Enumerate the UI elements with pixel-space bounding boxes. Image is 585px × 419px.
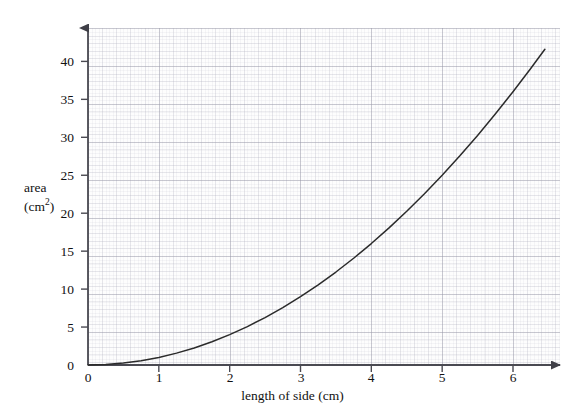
y-tick-label-10: 10 bbox=[44, 283, 74, 297]
x-tick-label-2: 2 bbox=[217, 371, 243, 385]
y-tick-label-30: 30 bbox=[44, 131, 74, 145]
y-axis-title: area (cm2) bbox=[24, 180, 54, 215]
y-tick-label-35: 35 bbox=[44, 93, 74, 107]
y-tick-label-0: 0 bbox=[44, 359, 74, 373]
x-tick-label-0: 0 bbox=[75, 371, 101, 385]
y-tick-label-15: 15 bbox=[44, 245, 74, 259]
y-axis-title-line2: (cm2) bbox=[24, 197, 54, 215]
plot-canvas bbox=[0, 0, 585, 419]
y-axis-title-line1: area bbox=[24, 180, 54, 197]
y-axis-unit-prefix: (cm bbox=[24, 198, 45, 213]
data-curve bbox=[88, 49, 545, 365]
x-axis-title: length of side (cm) bbox=[0, 388, 585, 405]
x-tick-label-4: 4 bbox=[358, 371, 384, 385]
x-axis-ticks bbox=[159, 365, 513, 372]
y-tick-label-5: 5 bbox=[44, 321, 74, 335]
y-axis-ticks bbox=[81, 61, 88, 327]
y-axis-unit-suffix: ) bbox=[50, 198, 55, 213]
x-tick-label-5: 5 bbox=[429, 371, 455, 385]
x-tick-label-3: 3 bbox=[288, 371, 314, 385]
y-tick-label-40: 40 bbox=[44, 55, 74, 69]
x-tick-label-1: 1 bbox=[146, 371, 172, 385]
chart-figure: 0 5 10 15 20 25 30 35 40 0 1 2 3 4 5 6 a… bbox=[0, 0, 585, 419]
x-tick-label-6: 6 bbox=[500, 371, 526, 385]
